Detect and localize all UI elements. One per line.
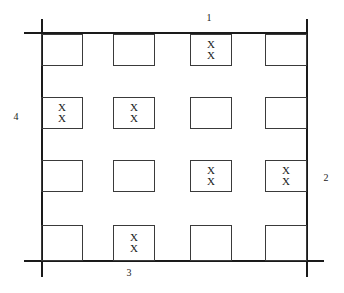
grid-cell-r1c1[interactable] xyxy=(41,34,83,66)
grid-cell-r2c4[interactable] xyxy=(265,97,307,129)
grid-cell-r2c1[interactable]: X X xyxy=(41,97,83,129)
cell-marks-r2c2: X X xyxy=(130,102,138,124)
cell-marks-r2c1: X X xyxy=(58,102,66,124)
cell-marks-r4c2: X X xyxy=(130,232,138,254)
cell-marks-r3c4: X X xyxy=(282,165,290,187)
grid-cell-r4c2[interactable]: X X xyxy=(113,225,155,261)
edge-label-top: 1 xyxy=(202,12,216,23)
cell-marks-r3c3: X X xyxy=(207,165,215,187)
grid-cell-r4c3[interactable] xyxy=(190,225,232,261)
grid-cell-r1c3[interactable]: X X xyxy=(190,34,232,66)
edge-label-right: 2 xyxy=(319,172,333,183)
grid-cell-r3c4[interactable]: X X xyxy=(265,160,307,192)
edge-label-left: 4 xyxy=(9,111,23,122)
grid-cell-r3c3[interactable]: X X xyxy=(190,160,232,192)
grid-cell-r1c2[interactable] xyxy=(113,34,155,66)
grid-cell-r3c2[interactable] xyxy=(113,160,155,192)
grid-cell-r4c1[interactable] xyxy=(41,225,83,261)
grid-cell-r3c1[interactable] xyxy=(41,160,83,192)
grid-cell-r2c3[interactable] xyxy=(190,97,232,129)
grid-cell-r2c2[interactable]: X X xyxy=(113,97,155,129)
grid-cell-r4c4[interactable] xyxy=(265,225,307,261)
edge-label-bottom: 3 xyxy=(122,267,136,278)
grid-cell-r1c4[interactable] xyxy=(265,34,307,66)
diagram-canvas: X X X X X X xyxy=(0,0,344,293)
cell-marks-r1c3: X X xyxy=(207,39,215,61)
